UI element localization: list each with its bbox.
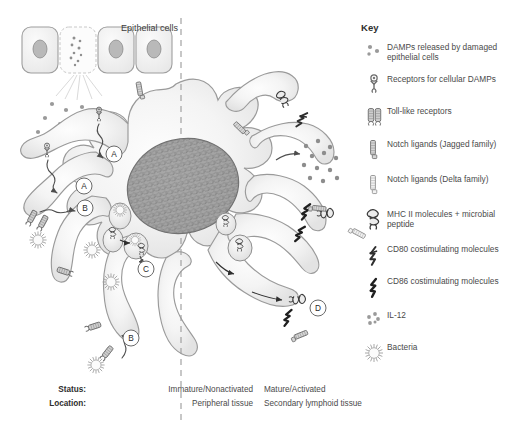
status-row-key: Status:: [58, 385, 86, 394]
status-left-value: Immature/Nonactivated: [106, 385, 253, 394]
callout-A: A: [76, 178, 92, 194]
phagosome-vesicle: [109, 203, 131, 229]
svg-text:B: B: [128, 333, 134, 343]
key-label-mhc: MHC II molecules + microbial peptide: [387, 209, 513, 229]
location-right-value: Secondary lymphoid tissue: [264, 399, 362, 408]
damps-dots-icon: [361, 42, 387, 58]
location-row: Location: Peripheral tissue Secondary ly…: [24, 399, 344, 413]
key-item-damp-receptor: Receptors for cellular DAMPs: [361, 74, 496, 96]
key-label-notch-delta: Notch ligands (Delta family): [387, 174, 488, 185]
toll-like-receptor-icon: [361, 106, 387, 130]
toll-like-receptor-bound: [36, 215, 48, 232]
key-label-cd80: CD80 costimulating molecules: [387, 244, 499, 255]
cd80-icon: [361, 244, 387, 268]
dendritic-cell-body: [21, 44, 334, 356]
key-label-notch-jagged: Notch ligands (Jagged family): [387, 139, 496, 150]
toll-like-receptor: [84, 322, 101, 332]
damp-receptor-icon: [361, 74, 387, 96]
location-left-value: Peripheral tissue: [106, 399, 253, 408]
svg-text:A: A: [111, 149, 117, 159]
location-row-key: Location:: [49, 399, 86, 408]
svg-text:D: D: [315, 303, 321, 313]
cd86-icon: [361, 276, 387, 300]
svg-text:A: A: [81, 181, 87, 191]
callout-A: A: [106, 146, 122, 162]
key-panel: Key DAMPs released by damaged epithelial…: [361, 22, 513, 33]
key-label-cd86: CD86 costimulating molecules: [387, 276, 499, 287]
key-item-notch-jagged: Notch ligands (Jagged family): [361, 139, 496, 165]
bacteria: [103, 274, 119, 290]
bacteria: [88, 357, 104, 373]
key-item-il12: IL-12: [361, 310, 406, 328]
notch-ligand-jagged-icon: [361, 139, 387, 165]
epithelial-cell: [22, 27, 58, 73]
callout-B: B: [123, 330, 139, 346]
il12-dots-icon: [361, 310, 387, 328]
key-item-cd86: CD86 costimulating molecules: [361, 276, 499, 300]
epithelial-cell: [98, 27, 134, 73]
status-row: Status: Immature/Nonactivated Mature/Act…: [24, 385, 344, 399]
key-item-bacteria: Bacteria: [361, 342, 417, 364]
callout-B: B: [77, 200, 93, 216]
figure-root: A A B B C D Epithelial cells Key D: [0, 0, 516, 437]
mhc-ii-peptide-icon: [361, 209, 387, 235]
notch-ligand-jagged: [136, 82, 145, 100]
notch-ligand-jagged: [290, 330, 308, 342]
notch-ligand-delta-icon: [361, 174, 387, 200]
bacteria: [84, 242, 100, 258]
key-item-cd80: CD80 costimulating molecules: [361, 244, 499, 268]
phagosome-vesicle: [124, 233, 148, 259]
key-label-bacteria: Bacteria: [387, 342, 417, 353]
bacteria-icon: [361, 342, 387, 364]
key-label-damp-receptor: Receptors for cellular DAMPs: [387, 74, 496, 85]
key-label-il12: IL-12: [387, 310, 406, 321]
epithelial-cell: [136, 27, 172, 73]
epithelial-cells-label: Epithelial cells: [121, 23, 178, 33]
svg-text:C: C: [143, 264, 149, 274]
callout-D: D: [310, 300, 326, 316]
key-label-tlr: Toll-like receptors: [387, 106, 452, 117]
key-item-notch-delta: Notch ligands (Delta family): [361, 174, 488, 200]
status-right-value: Mature/Activated: [264, 385, 325, 394]
status-location-table: Status: Immature/Nonactivated Mature/Act…: [24, 385, 344, 413]
mhc-loading-vesicle: [103, 227, 123, 252]
callout-C: C: [138, 261, 154, 277]
bacteria: [30, 232, 46, 248]
il12-secretion-arrow: [276, 154, 300, 160]
key-item-mhc: MHC II molecules + microbial peptide: [361, 209, 513, 235]
svg-text:B: B: [82, 203, 88, 213]
mhc-transport-vesicle: [228, 235, 252, 261]
damp-release-rays: [56, 75, 102, 100]
key-item-tlr: Toll-like receptors: [361, 106, 452, 130]
key-item-damps: DAMPs released by damaged epithelial cel…: [361, 42, 513, 62]
key-label-damps: DAMPs released by damaged epithelial cel…: [387, 42, 513, 62]
mhc-transport-vesicle: [216, 213, 236, 235]
cd86-molecule: [283, 309, 291, 327]
key-heading: Key: [361, 22, 513, 33]
epithelial-cell-damaged: [60, 27, 96, 73]
